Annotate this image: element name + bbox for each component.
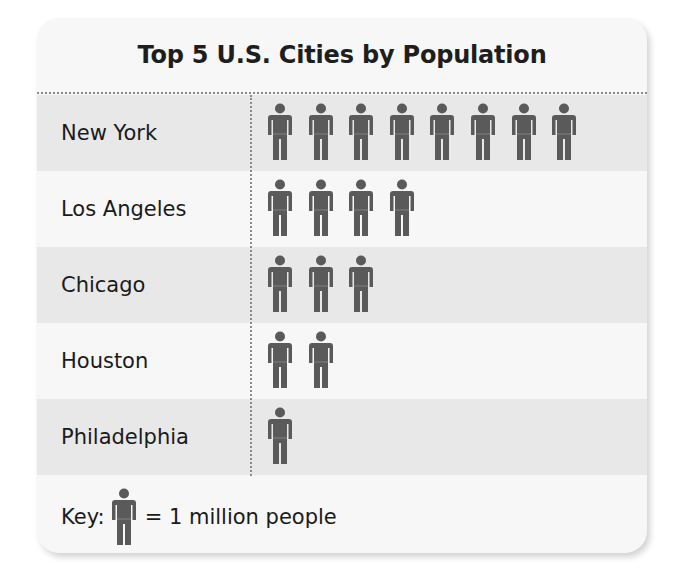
key-label: Key: xyxy=(61,505,105,529)
pictograph-card: Top 5 U.S. Cities by Population New York… xyxy=(37,18,647,553)
person-icon xyxy=(308,179,334,236)
city-label: Philadelphia xyxy=(61,399,189,475)
icon-group xyxy=(267,407,293,464)
chart-row-philadelphia: Philadelphia xyxy=(37,399,647,475)
chart-row-chicago: Chicago xyxy=(37,247,647,323)
person-icon xyxy=(348,103,374,160)
person-icon xyxy=(308,255,334,312)
person-icon xyxy=(308,331,334,388)
column-divider xyxy=(250,95,252,476)
person-icon xyxy=(551,103,577,160)
person-icon xyxy=(348,179,374,236)
chart-key: Key: = 1 million people xyxy=(61,488,337,545)
person-icon xyxy=(111,488,137,545)
person-icon xyxy=(470,103,496,160)
chart-row-los-angeles: Los Angeles xyxy=(37,171,647,247)
person-icon xyxy=(308,103,334,160)
chart-row-new-york: New York xyxy=(37,95,647,171)
person-icon xyxy=(348,255,374,312)
icon-group xyxy=(267,103,577,160)
person-icon xyxy=(511,103,537,160)
header-divider xyxy=(37,92,647,94)
icon-group xyxy=(267,255,374,312)
person-icon xyxy=(267,103,293,160)
person-icon xyxy=(267,179,293,236)
chart-rows: New York Los Angeles Chicago Houston Phi… xyxy=(37,95,647,475)
city-label: New York xyxy=(61,95,157,171)
city-label: Houston xyxy=(61,323,148,399)
person-icon xyxy=(267,331,293,388)
person-icon xyxy=(429,103,455,160)
person-icon xyxy=(389,103,415,160)
city-label: Chicago xyxy=(61,247,145,323)
person-icon xyxy=(267,255,293,312)
icon-group xyxy=(267,179,415,236)
key-text: = 1 million people xyxy=(145,505,337,529)
chart-row-houston: Houston xyxy=(37,323,647,399)
icon-group xyxy=(267,331,334,388)
person-icon xyxy=(267,407,293,464)
chart-title: Top 5 U.S. Cities by Population xyxy=(37,41,647,69)
person-icon xyxy=(389,179,415,236)
city-label: Los Angeles xyxy=(61,171,186,247)
